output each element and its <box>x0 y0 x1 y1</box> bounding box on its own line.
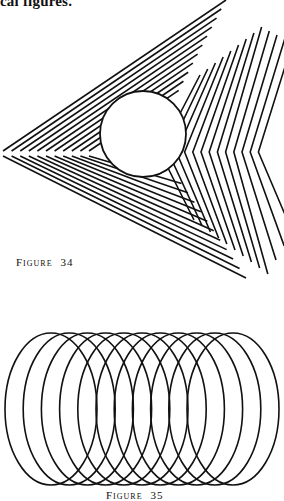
figure-34-caption: Figure34 <box>16 256 74 268</box>
figure-35-caption-label: Figure <box>106 489 143 501</box>
figure-34-illustration <box>0 0 284 290</box>
figure-35-illustration <box>0 320 284 498</box>
figure-35-drawing <box>0 320 284 498</box>
figure-34-caption-label: Figure <box>16 256 53 268</box>
figure-35-caption: Figure35 <box>106 489 164 501</box>
figure-34-caption-number: 34 <box>61 256 74 268</box>
figure-34-drawing <box>0 0 284 290</box>
figure-35-caption-number: 35 <box>151 489 164 501</box>
